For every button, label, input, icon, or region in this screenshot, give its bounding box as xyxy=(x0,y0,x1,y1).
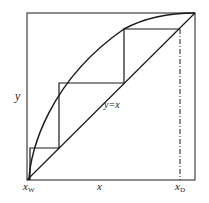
mccabe-thiele-diagram: y y=x x xW xD xyxy=(0,0,209,203)
x-axis-label: x xyxy=(96,180,102,192)
diagonal-label: y=x xyxy=(103,99,120,110)
xd-label: xD xyxy=(174,180,185,194)
xw-label: xW xyxy=(22,180,35,194)
y-axis-label: y xyxy=(14,89,21,103)
